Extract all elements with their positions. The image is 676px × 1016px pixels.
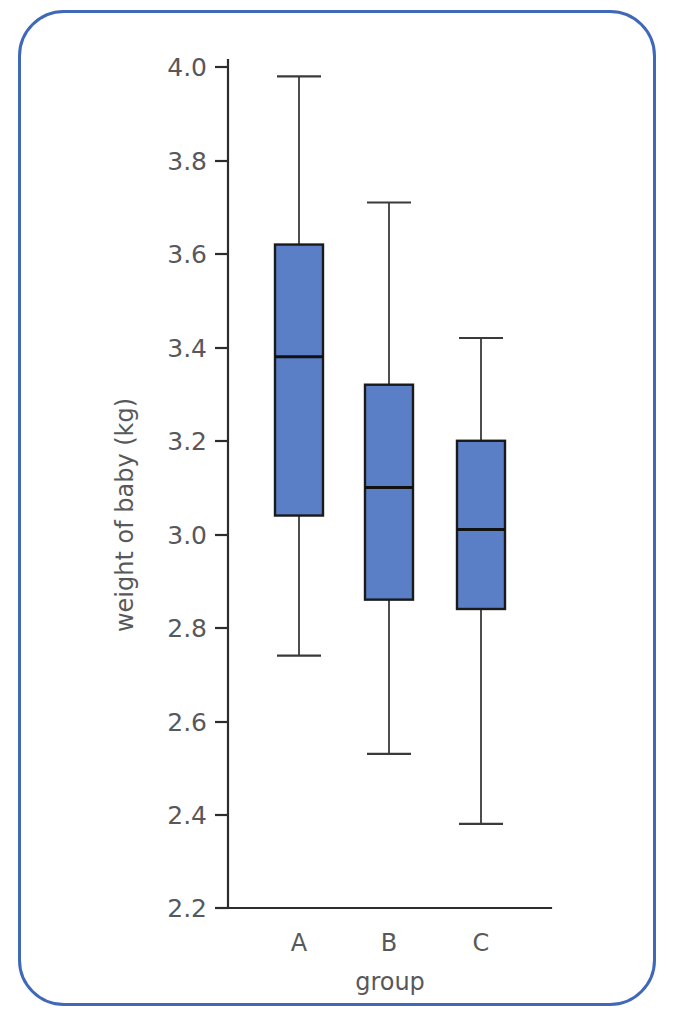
y-tick-label-2.6: 2.6 [167, 708, 207, 737]
iqr-box [275, 245, 323, 516]
box-b [365, 202, 413, 753]
y-tick-label-3.6: 3.6 [167, 240, 207, 269]
y-axis-ticks [215, 67, 228, 908]
y-axis-title: weight of baby (kg) [111, 398, 139, 632]
box-c [457, 338, 505, 824]
iqr-box [365, 385, 413, 600]
y-tick-label-2.8: 2.8 [167, 614, 207, 643]
x-axis-tick-labels: A B C [291, 929, 490, 957]
boxplot-series [275, 76, 505, 824]
box-a [275, 76, 323, 655]
y-tick-label-2.2: 2.2 [167, 894, 207, 923]
y-axis-tick-labels: 4.0 3.8 3.6 3.4 3.2 3.0 2.8 2.6 2.4 2.2 [167, 53, 207, 923]
y-tick-label-4.0: 4.0 [167, 53, 207, 82]
y-tick-label-3.0: 3.0 [167, 521, 207, 550]
y-tick-label-3.8: 3.8 [167, 147, 207, 176]
boxplot-figure: weight of baby (kg) 4.0 3.8 3.6 3.4 3.2 … [0, 0, 676, 1016]
y-tick-label-2.4: 2.4 [167, 801, 207, 830]
x-tick-label-a: A [291, 929, 308, 957]
x-axis-title: group [355, 968, 425, 996]
iqr-box [457, 441, 505, 609]
page-root: weight of baby (kg) 4.0 3.8 3.6 3.4 3.2 … [0, 0, 676, 1016]
y-tick-label-3.4: 3.4 [167, 334, 207, 363]
x-tick-label-b: B [381, 929, 397, 957]
y-tick-label-3.2: 3.2 [167, 427, 207, 456]
x-tick-label-c: C [473, 929, 490, 957]
